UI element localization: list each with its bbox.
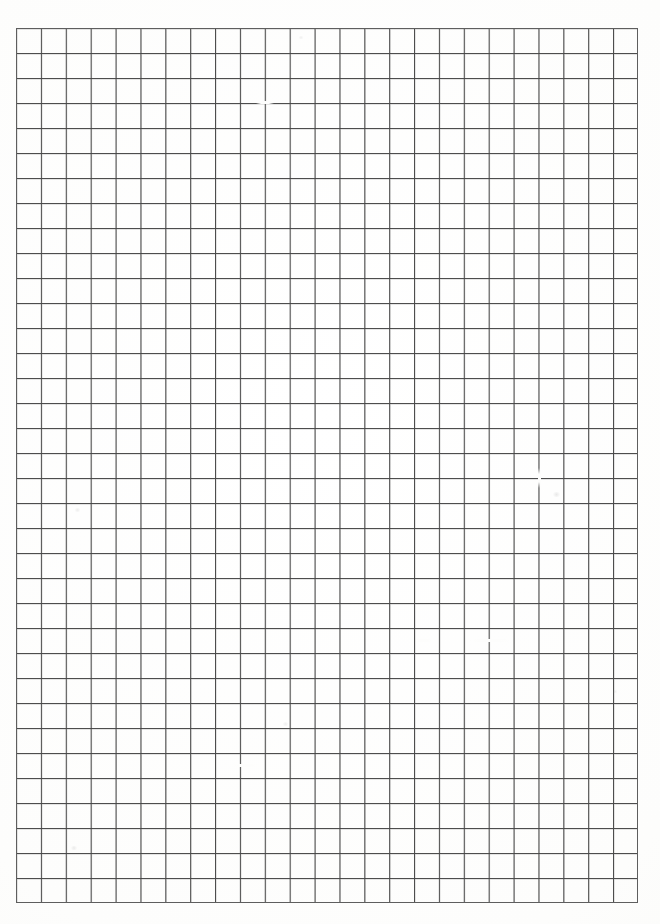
grid-outer-border xyxy=(16,28,638,903)
graph-paper-page xyxy=(0,0,660,924)
graph-paper-grid xyxy=(16,28,638,903)
